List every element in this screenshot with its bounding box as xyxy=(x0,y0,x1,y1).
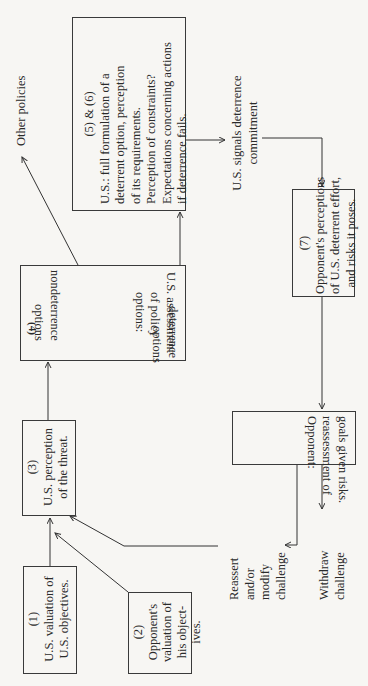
reassert-line: and/or xyxy=(243,520,259,600)
node-2-text: (2) Opponent's valuation of his object- … xyxy=(131,593,204,671)
node-4-nondeterrence-options: nondeterrence options xyxy=(31,270,62,350)
node-2-number: (2) xyxy=(131,593,146,671)
nondeterrence-options-line: options xyxy=(31,270,47,350)
reassert-line: challenge xyxy=(274,520,290,600)
node-5-6-line: U.S.: full formulation of a xyxy=(98,24,114,204)
node-8-text: goals given risks. reassessment of Oppon… xyxy=(304,416,351,516)
withdraw-line: challenge xyxy=(333,520,349,600)
node-4-deterrence-options: deterrence options xyxy=(149,306,180,366)
label-other-policies: Other policies xyxy=(14,76,30,146)
node-5-6-line: Perception of constraints? xyxy=(144,24,160,204)
node-4-line: options: xyxy=(132,272,148,354)
label-withdraw: Withdraw challenge xyxy=(317,520,348,600)
edge-reassert-to-3 xyxy=(70,516,218,546)
node-7-line: and risks it poses. xyxy=(344,192,360,294)
node-5-6-line: Expectations concerning actions xyxy=(160,24,176,204)
node-7-text: (7) Opponent's perceptions of U.S. deter… xyxy=(297,192,359,294)
node-8-line: goals given risks. xyxy=(335,416,351,516)
node-1-line: U.S. valuation of xyxy=(42,568,58,670)
signals-line: U.S. signals deterrence xyxy=(230,68,246,198)
node-7-line: Opponent's perceptions xyxy=(313,192,329,294)
node-5-6-number: (5) & (6) xyxy=(82,24,98,204)
node-2-line: ives. xyxy=(189,593,204,671)
other-policies-text: Other policies xyxy=(14,76,28,146)
node-1-number: (1) xyxy=(26,568,42,670)
edge-4-to-other-policies xyxy=(22,157,78,265)
node-1-line: U.S. objectives. xyxy=(57,568,73,670)
node-1-text: (1) U.S. valuation of U.S. objectives. xyxy=(26,568,73,670)
node-2-line: his object- xyxy=(175,593,190,671)
node-8-line: Opponent: xyxy=(304,416,320,516)
reassert-line: Reassert xyxy=(227,520,243,600)
withdraw-line: Withdraw xyxy=(317,520,333,600)
node-5-6-text: (5) & (6) U.S.: full formulation of a de… xyxy=(82,24,191,204)
nondeterrence-options-line: nondeterrence xyxy=(47,270,63,350)
node-3-number: (3) xyxy=(25,422,41,512)
signals-line: commitment xyxy=(246,68,262,198)
node-7-line: of U.S. deterrent effort, xyxy=(328,192,344,294)
node-7-number: (7) xyxy=(297,192,313,294)
node-2-line: Opponent's xyxy=(146,593,161,671)
node-3-line: U.S. perception xyxy=(41,422,57,512)
deterrence-options-line: options xyxy=(149,306,165,366)
node-5-6-line: if deterrence fails. xyxy=(175,24,191,204)
node-3-text: (3) U.S. perception of the threat. xyxy=(25,422,72,512)
label-signals: U.S. signals deterrence commitment xyxy=(230,68,261,198)
deterrence-options-line: deterrence xyxy=(165,306,181,366)
label-reassert: Reassert and/or modify challenge xyxy=(227,520,289,600)
node-8-line: reassessment of xyxy=(319,416,335,516)
node-5-6-line: of its requirements. xyxy=(129,24,145,204)
node-3-line: of the threat. xyxy=(56,422,72,512)
node-2-line: valuation of xyxy=(160,593,175,671)
node-5-6-line: deterrent option, perception xyxy=(113,24,129,204)
reassert-line: modify xyxy=(258,520,274,600)
